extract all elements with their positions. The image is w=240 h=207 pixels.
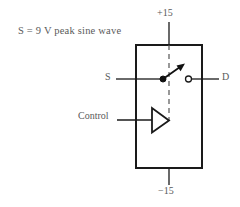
supply-negative-label: −15 bbox=[158, 186, 174, 196]
switch-throw-open-circle-icon bbox=[186, 76, 192, 82]
figure-note: S = 9 V peak sine wave bbox=[18, 26, 121, 37]
control-buffer-triangle-icon bbox=[152, 108, 169, 133]
switch-arm bbox=[163, 67, 180, 79]
switch-arm-arrowhead-icon bbox=[177, 64, 186, 72]
control-terminal-label: Control bbox=[78, 111, 109, 121]
supply-positive-label: +15 bbox=[157, 8, 173, 18]
drain-terminal-label: D bbox=[222, 72, 229, 82]
analog-switch-figure: S = 9 V peak sine wave +15 −15 S D Contr… bbox=[0, 0, 240, 207]
source-terminal-label: S bbox=[105, 72, 111, 82]
